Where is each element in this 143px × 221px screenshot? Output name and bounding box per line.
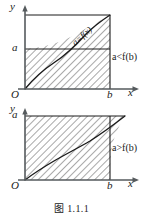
x-tick-label-b-bottom: b <box>107 179 113 191</box>
x-axis-label-top: x <box>128 86 133 98</box>
figure-panel-top: y x O b a a=f(x) a<f(b) <box>0 0 143 104</box>
x-axis-label-bottom: x <box>128 177 133 189</box>
hatched-region-lower-top <box>25 49 110 89</box>
y-tick-label-a-bottom: a <box>12 108 18 120</box>
y-tick-label-a-top: a <box>12 41 18 53</box>
origin-label-top: O <box>11 88 19 100</box>
origin-label-bottom: O <box>11 179 19 191</box>
condition-label-bottom: a>f(b) <box>112 142 137 153</box>
x-axis-arrow-bottom-icon <box>133 177 140 182</box>
y-axis-label-top: y <box>10 0 15 12</box>
figure-caption: 图 1.1.1 <box>0 200 143 215</box>
x-tick-label-b-top: b <box>107 88 113 100</box>
figure-panel-bottom: y x O b a a>f(b) <box>0 104 143 198</box>
condition-label-top: a<f(b) <box>112 51 137 62</box>
y-axis-arrow-bottom-icon <box>22 108 27 115</box>
figure-container: y x O b a a=f(x) a<f(b) <box>0 0 143 221</box>
x-axis-arrow-top-icon <box>133 86 140 91</box>
y-axis-arrow-top-icon <box>22 5 27 12</box>
